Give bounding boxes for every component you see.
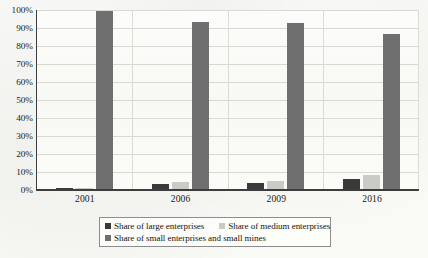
y-axis-tick-label: 70% <box>0 59 33 69</box>
legend-item-large-enterprises: Share of large enterprises <box>105 221 204 231</box>
bar <box>363 175 380 189</box>
chart-legend: Share of large enterprises Share of medi… <box>99 217 331 247</box>
legend-item-small-enterprises: Share of small enterprises and small min… <box>105 233 266 243</box>
x-axis-labels: 2001200620092016 <box>37 193 420 204</box>
bar <box>247 183 264 189</box>
y-axis-tick-label: 20% <box>0 149 33 159</box>
legend-item-medium-enterprises: Share of medium enterprises <box>219 221 330 231</box>
bar <box>383 34 400 189</box>
bar <box>172 182 189 189</box>
x-axis-tick-label: 2009 <box>229 193 325 204</box>
bar <box>152 184 169 189</box>
legend-label-medium: Share of medium enterprises <box>228 221 330 231</box>
y-axis-tick-label: 30% <box>0 131 33 141</box>
bar <box>267 181 284 189</box>
legend-row-2: Share of small enterprises and small min… <box>105 233 325 243</box>
legend-swatch-large-icon <box>105 223 111 229</box>
bar <box>76 188 93 189</box>
bar <box>287 23 304 189</box>
bar <box>96 11 113 189</box>
x-axis-tick-label: 2016 <box>324 193 420 204</box>
bar <box>56 188 73 189</box>
bar-chart: 0%10%20%30%40%50%60%70%80%90%100% 200120… <box>0 0 428 258</box>
bar-group <box>228 10 324 189</box>
x-axis-tick-label: 2001 <box>37 193 133 204</box>
bar-group <box>324 10 420 189</box>
y-axis-tick-label: 90% <box>0 23 33 33</box>
y-axis-tick-label: 80% <box>0 41 33 51</box>
bar <box>192 22 209 189</box>
x-axis-line <box>36 189 419 190</box>
y-axis-tick-label: 60% <box>0 77 33 87</box>
gridline <box>36 190 419 191</box>
x-axis-tick-label: 2006 <box>133 193 229 204</box>
bar <box>343 179 360 189</box>
legend-swatch-medium-icon <box>219 223 225 229</box>
legend-row-1: Share of large enterprises Share of medi… <box>105 221 325 231</box>
y-axis-tick-label: 50% <box>0 95 33 105</box>
legend-label-small: Share of small enterprises and small min… <box>114 233 266 243</box>
legend-label-large: Share of large enterprises <box>114 221 204 231</box>
bar-group <box>133 10 229 189</box>
y-axis-tick-label: 10% <box>0 167 33 177</box>
y-axis-tick-label: 100% <box>0 5 33 15</box>
bar-groups <box>37 10 419 189</box>
y-axis-tick-label: 40% <box>0 113 33 123</box>
legend-swatch-small-icon <box>105 235 111 241</box>
bar-group <box>37 10 133 189</box>
plot-area: 0%10%20%30%40%50%60%70%80%90%100% <box>36 10 419 190</box>
y-axis-tick-label: 0% <box>0 185 33 195</box>
